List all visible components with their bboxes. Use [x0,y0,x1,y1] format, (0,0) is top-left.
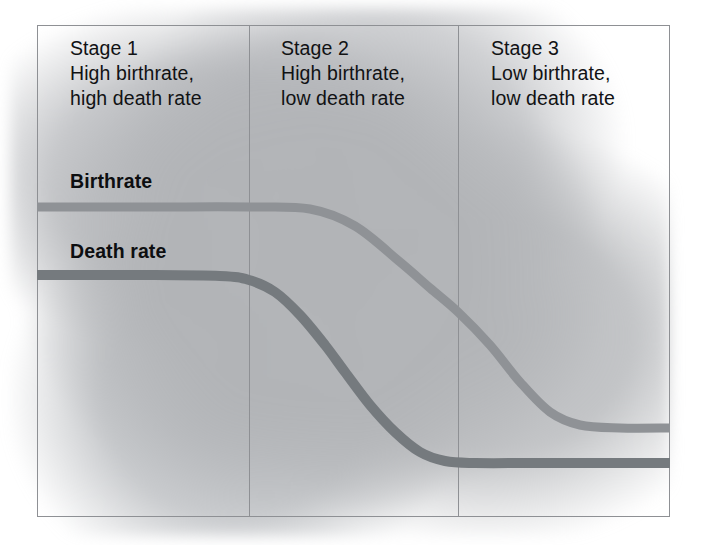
stage-1-desc-line-2: high death rate [70,86,270,111]
stage-1-desc-line-1: High birthrate, [70,61,270,86]
stage-3-desc-line-1: Low birthrate, [491,61,691,86]
death-rate-curve-label: Death rate [70,240,166,263]
stage-2-name: Stage 2 [281,36,481,61]
stage-3-name: Stage 3 [491,36,691,61]
stage-3-label-block: Stage 3 Low birthrate, low death rate [491,36,691,111]
stage-2-desc-line-2: low death rate [281,86,481,111]
stage-1-name: Stage 1 [70,36,270,61]
demographic-transition-figure: Stage 1 High birthrate, high death rate … [0,0,702,545]
birthrate-curve-label: Birthrate [70,170,152,193]
stage-3-desc-line-2: low death rate [491,86,691,111]
stage-2-desc-line-1: High birthrate, [281,61,481,86]
stage-2-label-block: Stage 2 High birthrate, low death rate [281,36,481,111]
stage-1-label-block: Stage 1 High birthrate, high death rate [70,36,270,111]
